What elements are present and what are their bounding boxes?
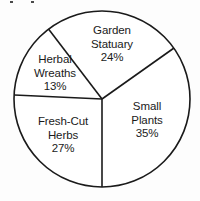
pie-chart: Garden Statuary 24% Herbal Wreaths 13% S…: [0, 0, 200, 201]
pie-chart-graphic: [0, 0, 200, 201]
